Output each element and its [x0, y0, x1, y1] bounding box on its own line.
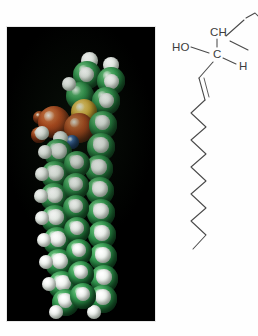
- label-hydrogen: H: [239, 60, 248, 72]
- bond-ch-right: [230, 41, 248, 50]
- hydrogen-atom: [91, 159, 107, 175]
- hydrogen-atom: [35, 126, 49, 140]
- hydrogen-atom: [70, 155, 84, 169]
- molecular-model-photo: [7, 27, 155, 321]
- hydrogen-atom: [47, 187, 63, 203]
- hydrogen-atom: [48, 209, 64, 225]
- clipped-upper-group: [246, 13, 258, 18]
- hydrogen-atom: [38, 145, 52, 159]
- hydrogen-atom: [96, 269, 112, 285]
- hydrogen-atom: [93, 203, 109, 219]
- hydrogen-atom: [74, 265, 88, 279]
- hydrocarbon-zigzag-chain: [191, 100, 206, 249]
- hydrogen-atom: [95, 247, 111, 263]
- hydrogen-atom: [69, 199, 83, 213]
- label-methine: CH: [210, 26, 227, 38]
- hydrogen-atom: [39, 255, 53, 269]
- bond-c-to-h: [223, 58, 236, 64]
- label-hydroxyl: HO: [172, 41, 190, 53]
- hydrogen-atom: [79, 67, 94, 82]
- bond-ch-to-upper-right: [226, 20, 244, 36]
- hydrogen-atom: [95, 289, 111, 305]
- bond-ho-to-c: [191, 47, 209, 53]
- hydrogen-atom: [76, 287, 90, 301]
- double-bond-inner: [204, 78, 209, 97]
- hydrogen-atom: [92, 181, 108, 197]
- hydrogen-atom: [70, 221, 84, 235]
- bond-c-to-chain: [199, 62, 213, 78]
- hydrogen-atom: [35, 167, 49, 181]
- hydrogen-atom: [48, 165, 64, 181]
- structural-formula-drawing: HO CH C H: [160, 0, 258, 336]
- hydrogen-atom: [72, 243, 86, 257]
- hydrogen-atom: [51, 143, 67, 159]
- hydrogen-atom: [49, 305, 63, 319]
- structural-formula-panel: HO CH C H: [160, 0, 258, 336]
- hydrogen-atom: [93, 137, 109, 153]
- hydrogen-atom: [69, 177, 83, 191]
- hydrogen-atom: [37, 233, 51, 247]
- hydrogen-atom: [95, 115, 110, 130]
- space-filling-model: [7, 27, 155, 321]
- hydrogen-atom: [35, 211, 49, 225]
- hydrogen-atom: [34, 189, 48, 203]
- hydrogen-atom: [42, 277, 56, 291]
- hydrogen-atom: [62, 77, 76, 91]
- hydrogen-atom: [99, 93, 114, 108]
- double-bond-outer: [199, 78, 205, 100]
- label-carbon: C: [213, 48, 222, 60]
- hydrogen-atom: [94, 225, 110, 241]
